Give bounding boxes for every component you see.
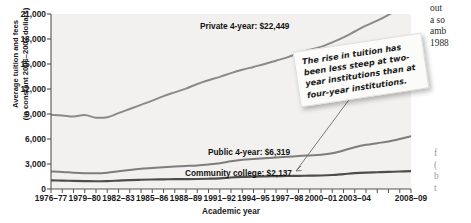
y-tick-label: 9,000 xyxy=(2,109,46,119)
x-tick-label: 1979–80 xyxy=(69,193,101,203)
y-tick-label: 6,000 xyxy=(2,134,46,144)
page-margin-text-bottom: f ( b t xyxy=(434,148,439,194)
y-tick-label: 18,000 xyxy=(2,34,46,44)
x-tick-label: 2003–04 xyxy=(339,193,371,203)
x-tick-label: 1997–98 xyxy=(271,193,303,203)
x-tick-label: 1991–92 xyxy=(204,193,236,203)
x-tick-label: 1994–95 xyxy=(237,193,269,203)
x-tick-label: 2008–09 xyxy=(395,193,427,203)
series-label-community-college: Community college: $2,137 xyxy=(185,168,292,178)
x-tick-label: 1976–77 xyxy=(35,193,67,203)
series-label-public-4-year: Public 4-year: $6,319 xyxy=(208,147,290,157)
y-tick-label: 15,000 xyxy=(2,59,46,69)
y-tick-label: 12,000 xyxy=(2,84,46,94)
series-canvas xyxy=(51,14,411,189)
x-tick-label: 1985–86 xyxy=(136,193,168,203)
x-axis-title: Academic year xyxy=(51,207,411,216)
x-tick-label: 2000–01 xyxy=(305,193,337,203)
y-axis-tick-labels: 03,0006,0009,00012,00015,00018,00021,000 xyxy=(0,0,46,223)
chart-figure: Average tuition and fees (in constant 20… xyxy=(0,0,471,223)
x-tick-label: 1988–89 xyxy=(170,193,202,203)
annotation-note-text: The rise in tuition has been less steep … xyxy=(301,40,420,101)
x-tick-label: 1982–83 xyxy=(102,193,134,203)
y-tick-label: 3,000 xyxy=(2,159,46,169)
page-margin-text-top: out a so amb 1988 xyxy=(430,3,449,49)
series-label-private-4-year: Private 4-year: $22,449 xyxy=(200,21,290,31)
y-tick-label: 21,000 xyxy=(2,9,46,19)
x-axis-tick-labels: 1976–771979–801982–831985–861988–891991–… xyxy=(0,193,471,207)
plot-area xyxy=(51,14,411,189)
